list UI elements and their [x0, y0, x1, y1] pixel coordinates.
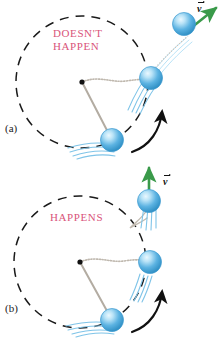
velocity-label-a: v [197, 2, 203, 14]
panel-letter-a: (a) [5, 122, 17, 134]
panel-b [0, 172, 220, 344]
vector-arrow-accent-a [198, 2, 204, 3]
velocity-symbol-b: v [163, 176, 167, 187]
velocity-symbol-a: v [197, 3, 201, 14]
panel-letter-b: (b) [5, 302, 18, 314]
vector-arrow-accent-b [164, 175, 170, 176]
caption-doesnt-happen: DOESN'T HAPPEN [53, 27, 103, 53]
panel-a [0, 0, 220, 172]
physics-figure: DOESN'T HAPPEN HAPPENS (a) (b) v v [0, 0, 220, 344]
caption-happens: HAPPENS [50, 211, 103, 224]
velocity-label-b: v [163, 175, 169, 187]
